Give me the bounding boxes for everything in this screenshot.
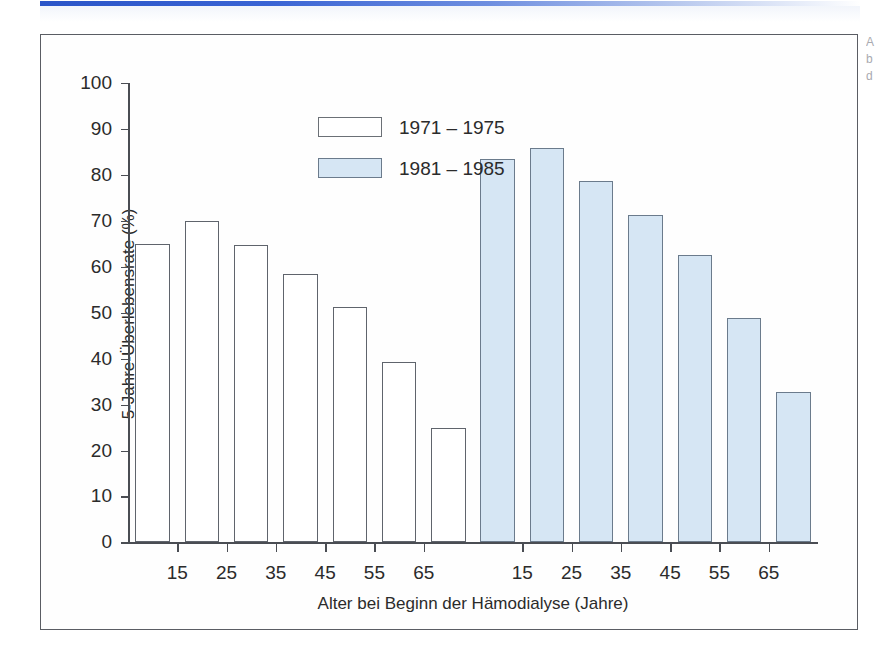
y-axis-tick-label: 80 bbox=[91, 165, 112, 184]
x-axis-tick-label: 45 bbox=[650, 563, 690, 582]
x-axis-tick-label: 35 bbox=[601, 563, 641, 582]
bar bbox=[776, 392, 811, 542]
legend-entry-1981-1985: 1981 – 1985 bbox=[318, 154, 505, 182]
y-axis-tick bbox=[121, 542, 128, 543]
bar bbox=[727, 318, 762, 542]
bar bbox=[628, 215, 663, 543]
legend-label: 1971 – 1975 bbox=[399, 118, 505, 137]
caption-fragment: d bbox=[866, 68, 893, 85]
legend-swatch-icon bbox=[318, 158, 382, 178]
legend: 1971 – 1975 1981 – 1985 bbox=[318, 113, 505, 195]
y-axis-tick-label: 50 bbox=[91, 303, 112, 322]
legend-label: 1981 – 1985 bbox=[399, 159, 505, 178]
caption-fragment: A bbox=[866, 34, 893, 51]
x-axis-tick bbox=[522, 544, 523, 552]
x-axis-tick bbox=[227, 544, 228, 552]
x-axis-tick bbox=[621, 544, 622, 552]
caption-fragment: b bbox=[866, 51, 893, 68]
x-axis-tick bbox=[177, 544, 178, 552]
y-axis-tick bbox=[121, 221, 128, 222]
x-axis-tick-label: 15 bbox=[502, 563, 542, 582]
bar bbox=[185, 221, 220, 543]
y-axis-tick bbox=[121, 496, 128, 497]
x-axis-tick-label: 25 bbox=[552, 563, 592, 582]
y-axis-tick-label: 60 bbox=[91, 257, 112, 276]
y-axis-tick bbox=[121, 175, 128, 176]
x-axis-tick bbox=[325, 544, 326, 552]
x-axis-tick bbox=[276, 544, 277, 552]
x-axis-tick-label: 15 bbox=[157, 563, 197, 582]
bar bbox=[382, 362, 417, 543]
bar bbox=[480, 159, 515, 542]
y-axis-tick bbox=[121, 83, 128, 84]
x-axis-tick-label: 65 bbox=[749, 563, 789, 582]
bar bbox=[678, 255, 713, 543]
y-axis-tick-label: 10 bbox=[91, 486, 112, 505]
y-axis-tick bbox=[121, 267, 128, 268]
y-axis-tick bbox=[121, 129, 128, 130]
y-axis-tick bbox=[121, 313, 128, 314]
y-axis-line bbox=[128, 83, 130, 544]
bar bbox=[135, 244, 170, 543]
top-rule-shadow bbox=[40, 6, 860, 22]
legend-entry-1971-1975: 1971 – 1975 bbox=[318, 113, 505, 141]
x-axis-tick bbox=[769, 544, 770, 552]
y-axis-tick-label: 100 bbox=[80, 73, 112, 92]
y-axis-tick-label: 30 bbox=[91, 395, 112, 414]
plot-area: 5-Jahre-Überlebensrate (%) 0102030405060… bbox=[128, 83, 818, 544]
legend-swatch-icon bbox=[318, 117, 382, 137]
x-axis-tick bbox=[670, 544, 671, 552]
x-axis-tick bbox=[424, 544, 425, 552]
y-axis-tick-label: 20 bbox=[91, 441, 112, 460]
x-axis-tick bbox=[572, 544, 573, 552]
bar bbox=[283, 274, 318, 542]
x-axis-tick-label: 25 bbox=[207, 563, 247, 582]
y-axis-tick-label: 70 bbox=[91, 211, 112, 230]
y-axis-tick-label: 90 bbox=[91, 119, 112, 138]
y-axis-tick bbox=[121, 405, 128, 406]
bar bbox=[530, 148, 565, 543]
caption-fragments: A b d bbox=[866, 34, 893, 124]
x-axis-tick-label: 65 bbox=[404, 563, 444, 582]
y-axis-tick bbox=[121, 359, 128, 360]
bar bbox=[579, 181, 614, 543]
x-axis-tick-label: 55 bbox=[699, 563, 739, 582]
y-axis-tick bbox=[121, 451, 128, 452]
bar bbox=[234, 245, 269, 543]
bar bbox=[431, 428, 466, 543]
x-axis-title: Alter bei Beginn der Hämodialyse (Jahre) bbox=[128, 594, 818, 614]
y-axis-tick-label: 40 bbox=[91, 349, 112, 368]
x-axis-line bbox=[128, 542, 818, 544]
x-axis-tick-label: 45 bbox=[305, 563, 345, 582]
x-axis-tick bbox=[374, 544, 375, 552]
x-axis-tick-label: 55 bbox=[354, 563, 394, 582]
x-axis-tick-label: 35 bbox=[256, 563, 296, 582]
y-axis-tick-label: 0 bbox=[101, 532, 112, 551]
x-axis-tick bbox=[719, 544, 720, 552]
bar bbox=[333, 307, 368, 543]
